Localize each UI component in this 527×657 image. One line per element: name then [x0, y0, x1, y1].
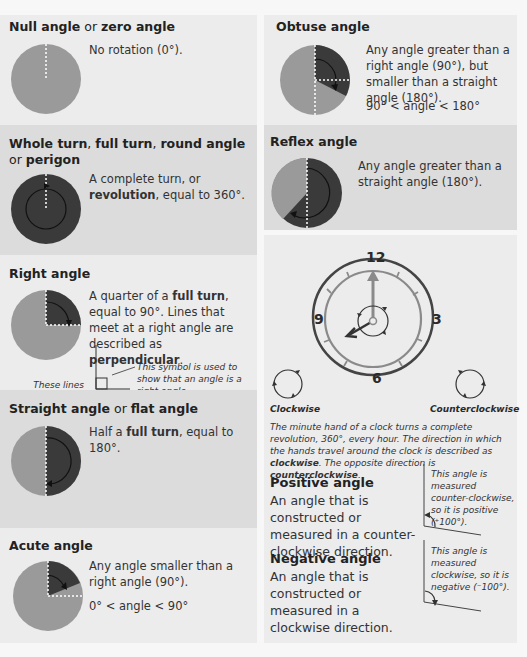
acute-angle-panel: Acute angle Any angle smaller than a rig… [0, 528, 257, 643]
clockwise-label: Clockwise [270, 404, 320, 414]
straight-angle-desc: Half a full turn, equal to 180°. [89, 424, 257, 456]
counterclockwise-label: Counterclockwise [430, 404, 519, 414]
straight-angle-title: Straight angle or flat angle [9, 401, 198, 417]
acute-angle-inequality: 0° < angle < 90° [89, 598, 188, 614]
whole-turn-pie-icon [10, 173, 82, 245]
whole-turn-panel: Whole turn, full turn, round angleor per… [0, 125, 257, 255]
reflex-angle-title: Reflex angle [270, 134, 357, 150]
right-angle-panel: Right angle A quarter of a full turn, eq… [0, 255, 257, 390]
reflex-angle-panel: Reflex angle Any angle greater than a st… [264, 125, 517, 230]
null-angle-pie-icon [10, 43, 82, 115]
acute-angle-pie-icon [12, 560, 84, 632]
clock-panel: 12 3 6 9 Clockwise Counterclockwise The … [264, 235, 517, 643]
clock-icon [309, 255, 439, 385]
clock-number-6: 6 [372, 370, 382, 386]
right-angle-pie-icon [10, 289, 82, 361]
right-angle-title: Right angle [9, 266, 90, 282]
whole-turn-desc: A complete turn, orrevolution, equal to … [89, 171, 254, 203]
null-angle-panel: Null angle or zero angle No rotation (0°… [0, 15, 257, 125]
null-angle-desc: No rotation (0°). [89, 42, 183, 58]
acute-angle-desc: Any angle smaller than a right angle (90… [89, 558, 254, 590]
negative-angle-desc: An angle that is constructed or measured… [270, 568, 410, 636]
straight-angle-panel: Straight angle or flat angle Half a full… [0, 390, 257, 528]
obtuse-angle-inequality: 90° < angle < 180° [366, 98, 480, 114]
reflex-angle-desc: Any angle greater than a straight angle … [358, 158, 508, 190]
counterclockwise-icon [453, 367, 487, 401]
null-angle-title: Null angle or zero angle [9, 19, 175, 35]
obtuse-angle-desc: Any angle greater than a right angle (90… [366, 42, 516, 106]
straight-angle-pie-icon [10, 425, 82, 497]
positive-angle-title: Positive angle [270, 475, 374, 490]
positive-angle-note: This angle is measured counter-clockwise… [431, 468, 515, 528]
whole-turn-title: Whole turn, full turn, round angleor per… [9, 136, 249, 168]
clock-number-9: 9 [314, 311, 324, 327]
negative-angle-note: This angle is measured clockwise, so it … [431, 545, 515, 593]
obtuse-angle-pie-icon [279, 44, 351, 116]
reflex-angle-pie-icon [271, 157, 343, 229]
positive-angle-desc: An angle that is constructed or measured… [270, 492, 420, 560]
obtuse-angle-panel: Obtuse angle Any angle greater than a ri… [264, 15, 517, 125]
negative-angle-title: Negative angle [270, 551, 381, 566]
obtuse-angle-title: Obtuse angle [276, 19, 370, 35]
clock-number-3: 3 [432, 311, 442, 327]
acute-angle-title: Acute angle [9, 538, 93, 554]
clock-number-12: 12 [366, 249, 385, 265]
clockwise-icon [271, 367, 305, 401]
